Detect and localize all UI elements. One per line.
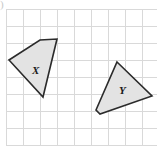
shape-x-label: X <box>31 64 40 76</box>
geometry-figure: X Y ) <box>0 0 159 154</box>
figure-canvas: X Y ) <box>0 0 159 154</box>
corner-paren-mark: ) <box>0 0 4 11</box>
